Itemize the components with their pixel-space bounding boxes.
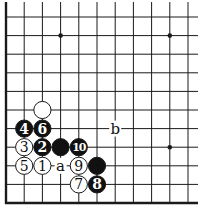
move-number: 2 (38, 139, 48, 155)
move-number: 10 (72, 141, 87, 154)
stone-disc (88, 157, 105, 174)
move-number: 9 (74, 158, 83, 174)
black-stone: 4 (16, 120, 33, 137)
star-point (168, 145, 173, 150)
move-number: 4 (19, 121, 29, 137)
move-number: 5 (20, 158, 29, 174)
white-stone: 9 (70, 157, 87, 174)
star-point (58, 33, 63, 38)
white-stone (34, 101, 51, 118)
black-stone (52, 139, 69, 156)
black-stone: 2 (34, 139, 51, 156)
black-stone (88, 157, 105, 174)
black-stone: 6 (34, 120, 51, 137)
go-board: ab 46321051978 (0, 0, 204, 213)
white-stone: 1 (34, 157, 51, 174)
move-number: 7 (74, 176, 83, 192)
white-stone: 3 (16, 139, 33, 156)
move-number: 1 (38, 158, 47, 174)
stone-disc (34, 101, 51, 118)
marker-label-a: a (56, 157, 65, 175)
move-number: 3 (20, 139, 29, 155)
stone-disc (52, 139, 69, 156)
move-number: 6 (38, 121, 48, 137)
black-stone: 10 (70, 139, 87, 156)
marker-label-b: b (110, 120, 120, 138)
move-number: 8 (92, 176, 102, 192)
white-stone: 5 (16, 157, 33, 174)
white-stone: 7 (70, 176, 87, 193)
black-stone: 8 (88, 176, 105, 193)
star-point (168, 33, 173, 38)
